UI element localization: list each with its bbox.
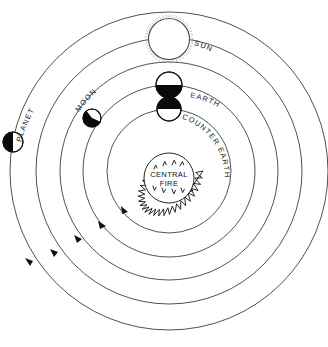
counter-earth-dark-half <box>157 97 181 109</box>
central-fire-label-line1: CENTRAL <box>150 170 188 179</box>
sun-disc <box>149 19 190 60</box>
planet-dark-half <box>3 132 13 152</box>
label-planet: PLANET <box>14 106 36 143</box>
arrowhead-planet-orbit <box>25 258 33 266</box>
cosmos-svg: CENTRAL FIRE <box>0 0 328 347</box>
arrowhead-counter-earth-orbit <box>121 206 128 214</box>
body-sun <box>145 15 193 63</box>
earth-dark-half <box>156 85 182 98</box>
central-fire-label-line2: FIRE <box>160 179 179 188</box>
central-fire: CENTRAL FIRE <box>138 153 203 216</box>
pythagorean-cosmology-diagram: CENTRAL FIRE <box>0 0 328 347</box>
label-planet-text: PLANET <box>14 106 36 143</box>
body-counter-earth <box>157 97 181 121</box>
label-sun-text: SUN <box>193 38 214 53</box>
body-earth <box>156 72 182 98</box>
arrowhead-sun-orbit <box>50 249 58 257</box>
arrowhead-moon-orbit <box>74 235 82 243</box>
body-moon <box>83 109 101 127</box>
label-sun: SUN <box>193 38 214 53</box>
label-group: SUN MOON EARTH COUNTER EARTH <box>14 38 232 178</box>
